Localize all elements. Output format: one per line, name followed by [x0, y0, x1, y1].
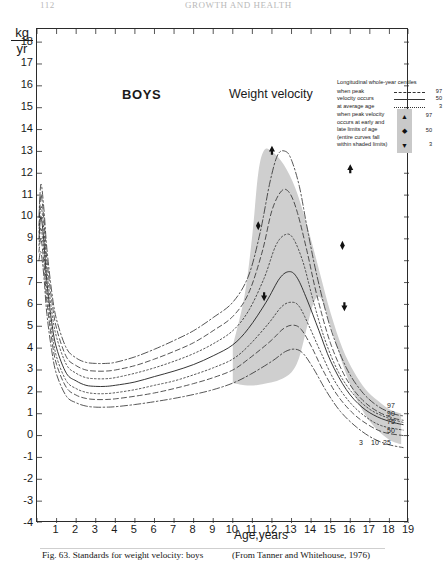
- legend-line: at average age: [337, 103, 397, 111]
- y-tick-label: 10: [7, 210, 33, 221]
- centile-curve-90: [39, 189, 403, 420]
- x-tick-label: 7: [170, 524, 176, 535]
- x-tick-label: 2: [72, 524, 78, 535]
- curve-label-25: 25: [383, 439, 391, 446]
- chart-group-title: BOYS: [122, 87, 161, 102]
- y-tick-label: 14: [7, 123, 33, 134]
- y-tick-label: 16: [7, 79, 33, 90]
- y-tick-label: 12: [7, 167, 33, 178]
- annotation-up-arrow: [347, 164, 353, 173]
- y-tick-label: 18: [7, 36, 33, 47]
- legend-line: occurs at early and: [337, 119, 397, 127]
- x-tick-label: 10: [226, 524, 238, 535]
- legend-key-line-50: [394, 99, 425, 100]
- y-tick-label: 4: [7, 342, 33, 353]
- y-tick-label: 3: [7, 363, 33, 374]
- centile-curve-75: [39, 206, 403, 422]
- y-tick-label: -1: [7, 451, 33, 462]
- y-tick-label: 2: [7, 385, 33, 396]
- y-tick-label: 13: [7, 145, 33, 156]
- curve-label-50: 50: [387, 427, 395, 434]
- x-tick-label: 19: [402, 524, 414, 535]
- legend-value: 3: [416, 141, 432, 149]
- running-head: 112 GROWTH AND HEALTH: [0, 0, 421, 14]
- x-tick-label: 1: [53, 524, 59, 535]
- running-head-title: GROWTH AND HEALTH: [185, 0, 292, 10]
- legend-line: velocity occurs: [337, 95, 397, 103]
- y-tick-label: 6: [7, 298, 33, 309]
- centile-curve-50: [39, 217, 403, 425]
- y-tick-label: 11: [7, 189, 33, 200]
- x-tick-label: 12: [265, 524, 277, 535]
- figure-caption: Fig. 63. Standards for weight velocity: …: [0, 548, 421, 568]
- x-axis-tick-labels: 12345678910111213141516171819: [36, 524, 408, 540]
- y-tick-label: 15: [7, 101, 33, 112]
- curve-label-10: 10: [371, 439, 379, 446]
- x-tick-label: 4: [111, 524, 117, 535]
- x-tick-label: 11: [246, 524, 257, 535]
- x-tick-label: 6: [150, 524, 156, 535]
- centile-curve-10: [39, 239, 403, 436]
- caption-rule: [40, 548, 385, 549]
- y-tick-label: 17: [7, 57, 33, 68]
- x-tick-label: 15: [324, 524, 336, 535]
- chart-legend: Longitudinal whole-year centiles when pe…: [337, 79, 443, 159]
- legend-value: 97: [416, 112, 432, 120]
- centile-curve-3: [39, 252, 403, 448]
- legend-marker-up-arrow: ▲: [400, 113, 409, 120]
- annotation-down-arrow: [341, 302, 347, 311]
- curve-label-97: 97: [387, 402, 395, 409]
- x-tick-label: 18: [382, 524, 394, 535]
- legend-value: 3: [426, 103, 442, 111]
- caption-source: (From Tanner and Whitehouse, 1976): [232, 550, 370, 560]
- x-tick-label: 13: [284, 524, 296, 535]
- legend-line: when peak: [337, 88, 397, 96]
- chart-plot-area: BOYS Weight velocity Age,years Longitudi…: [36, 28, 408, 522]
- y-tick-label: 8: [7, 254, 33, 265]
- y-tick-label: 1: [7, 407, 33, 418]
- curve-label-75: 75: [387, 418, 395, 425]
- y-tick-label: -2: [7, 473, 33, 484]
- chart-measure-title: Weight velocity: [229, 87, 313, 101]
- annotation-diamond: [340, 241, 345, 250]
- y-tick-label: 7: [7, 276, 33, 287]
- x-tick-label: 8: [190, 524, 196, 535]
- x-tick-label: 9: [209, 524, 215, 535]
- curve-label-3: 3: [359, 439, 363, 446]
- x-tick-label: 5: [131, 524, 137, 535]
- legend-value: 97: [426, 88, 442, 96]
- y-tick-label: 9: [7, 232, 33, 243]
- y-tick-label: 5: [7, 320, 33, 331]
- legend-line: within shaded limits): [337, 141, 397, 149]
- y-tick-label: -4: [7, 517, 33, 528]
- y-axis-tick-labels: 1817161514131211109876543210-1-2-3-4: [4, 28, 33, 522]
- legend-key-line-97: [394, 92, 425, 93]
- curve-label-90: 90: [387, 410, 395, 417]
- legend-key-line-3: [394, 107, 425, 108]
- x-tick-label: 17: [363, 524, 375, 535]
- y-tick-label: -3: [7, 495, 33, 506]
- y-tick-label: 0: [7, 429, 33, 440]
- legend-line: (entire curves fall: [337, 134, 397, 142]
- x-tick-label: 14: [304, 524, 316, 535]
- legend-value: 50: [426, 95, 442, 103]
- legend-marker-down-arrow: ▼: [400, 142, 409, 149]
- legend-marker-diamond: ◆: [400, 127, 409, 134]
- running-head-page-number: 112: [40, 0, 55, 10]
- legend-title: Longitudinal whole-year centiles: [337, 79, 443, 87]
- caption-text: Fig. 63. Standards for weight velocity: …: [42, 550, 203, 560]
- x-tick-label: 16: [343, 524, 355, 535]
- x-tick-label: 3: [92, 524, 98, 535]
- legend-line: late limits of age: [337, 126, 397, 134]
- legend-value: 50: [416, 127, 432, 135]
- legend-line: when peak velocity: [337, 111, 397, 119]
